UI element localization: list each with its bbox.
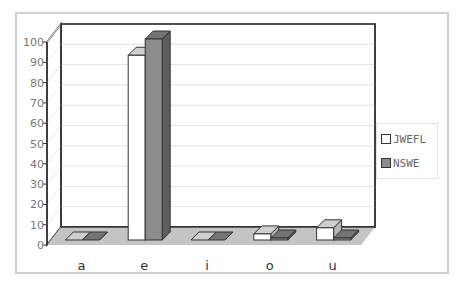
legend-swatch-jwefl	[381, 134, 391, 144]
svg-text:u: u	[328, 258, 336, 273]
svg-text:90: 90	[30, 56, 44, 69]
svg-text:e: e	[140, 258, 148, 273]
svg-text:0: 0	[37, 239, 44, 252]
legend-label: JWEFL	[393, 133, 426, 146]
svg-text:o: o	[266, 258, 274, 273]
chart-legend: JWEFL NSWE	[376, 123, 438, 179]
svg-text:20: 20	[30, 198, 44, 211]
legend-swatch-nswe	[381, 158, 391, 168]
svg-text:40: 40	[30, 158, 44, 171]
svg-text:30: 30	[30, 178, 44, 191]
svg-text:60: 60	[30, 117, 44, 130]
legend-label: NSWE	[393, 157, 420, 170]
svg-text:80: 80	[30, 77, 44, 90]
svg-text:a: a	[77, 258, 85, 273]
svg-text:50: 50	[30, 138, 44, 151]
bar-nswe-e	[145, 31, 170, 240]
legend-item-nswe: NSWE	[381, 156, 420, 170]
svg-text:70: 70	[30, 97, 44, 110]
svg-text:10: 10	[30, 219, 44, 232]
svg-text:100: 100	[23, 36, 44, 49]
legend-item-jwefl: JWEFL	[381, 132, 426, 146]
svg-text:i: i	[205, 258, 209, 273]
